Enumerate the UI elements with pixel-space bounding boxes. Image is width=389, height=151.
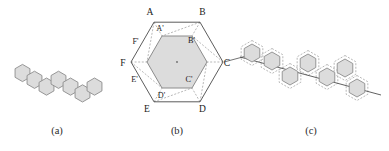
panel-b-inner-label-b-prime: B' (188, 36, 195, 45)
panel-b-outer-label-a: A (147, 7, 154, 17)
panel-b-inner-label-e-prime: E' (131, 75, 138, 84)
panel-b-center-marker (176, 61, 178, 63)
panel-b-inner-label-a-prime: A' (156, 24, 164, 33)
panel-a-hexagon (87, 78, 102, 95)
panel-b-caption: (b) (171, 125, 184, 137)
panel-b-inner-label-d-prime: D' (158, 91, 166, 100)
panel-c-hexagon (264, 52, 280, 70)
panel-b-inner-label-c-prime: C' (186, 75, 193, 84)
panel-c-hexagon (300, 54, 316, 72)
panel-b-outer-label-e: E (144, 104, 150, 114)
panel-c-hexagon (244, 44, 260, 62)
panel-c-caption: (c) (305, 125, 317, 137)
panel-b: ABCDEFA'B'C'D'E'F' (120, 7, 230, 114)
panel-b-outer-label-b: B (199, 7, 205, 17)
panel-c-hexagon (319, 68, 335, 86)
panel-a-caption: (a) (51, 125, 63, 137)
panel-c-hexagon (349, 79, 365, 97)
panel-c-hexagon (282, 67, 298, 85)
panel-c-hexagon (337, 59, 353, 77)
scientific-figure: ABCDEFA'B'C'D'E'F' (a) (b) (c) (0, 0, 389, 151)
panel-b-outer-label-d: D (199, 104, 206, 114)
figure-container: ABCDEFA'B'C'D'E'F' (a) (b) (c) (0, 0, 389, 151)
panel-c (224, 41, 381, 101)
panel-b-inner-label-f-prime: F' (132, 37, 139, 46)
panel-b-outer-label-f: F (120, 58, 125, 68)
panel-a (15, 64, 102, 102)
panel-b-outer-label-c: C (224, 58, 230, 68)
